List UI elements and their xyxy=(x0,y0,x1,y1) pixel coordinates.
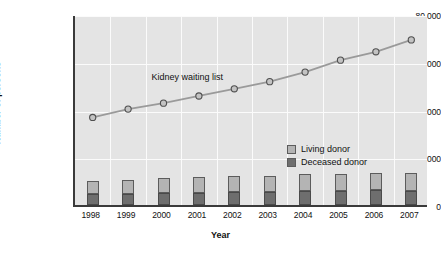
data-point-marker xyxy=(90,114,96,120)
x-tick-label: 2003 xyxy=(258,210,277,220)
kidney-waiting-list-line xyxy=(93,40,412,118)
data-point-marker xyxy=(267,79,273,85)
x-tick-label: 2002 xyxy=(223,210,242,220)
line-series xyxy=(75,16,429,207)
data-point-marker xyxy=(125,106,131,112)
data-point-marker xyxy=(196,93,202,99)
legend-item-deceased-donor: Deceased donor xyxy=(287,157,367,167)
series-annotation: Kidney waiting list xyxy=(152,72,224,82)
legend-swatch-deceased-donor xyxy=(287,158,296,167)
data-point-marker xyxy=(408,37,414,43)
chart-legend: Living donor Deceased donor xyxy=(287,144,367,170)
x-tick-label: 2005 xyxy=(329,210,348,220)
x-tick-label: 1998 xyxy=(81,210,100,220)
x-tick-label: 2007 xyxy=(400,210,419,220)
chart-figure: Number of persons 020,00040,00060,00080,… xyxy=(0,0,441,253)
legend-swatch-living-donor xyxy=(287,145,296,154)
x-tick-label: 2004 xyxy=(294,210,313,220)
x-tick-label: 1999 xyxy=(117,210,136,220)
data-point-marker xyxy=(373,49,379,55)
data-point-marker xyxy=(337,57,343,63)
y-axis-title: Number of persons xyxy=(0,62,2,145)
data-point-marker xyxy=(302,69,308,75)
data-point-marker xyxy=(231,86,237,92)
data-point-marker xyxy=(160,100,166,106)
x-tick-label: 2006 xyxy=(365,210,384,220)
legend-label-deceased-donor: Deceased donor xyxy=(301,157,367,167)
legend-label-living-donor: Living donor xyxy=(301,144,350,154)
plot-area: Kidney waiting list Living donor Decease… xyxy=(73,16,427,207)
x-axis-title: Year xyxy=(0,230,441,240)
x-tick-label: 2000 xyxy=(152,210,171,220)
x-tick-label: 2001 xyxy=(188,210,207,220)
legend-item-living-donor: Living donor xyxy=(287,144,367,154)
